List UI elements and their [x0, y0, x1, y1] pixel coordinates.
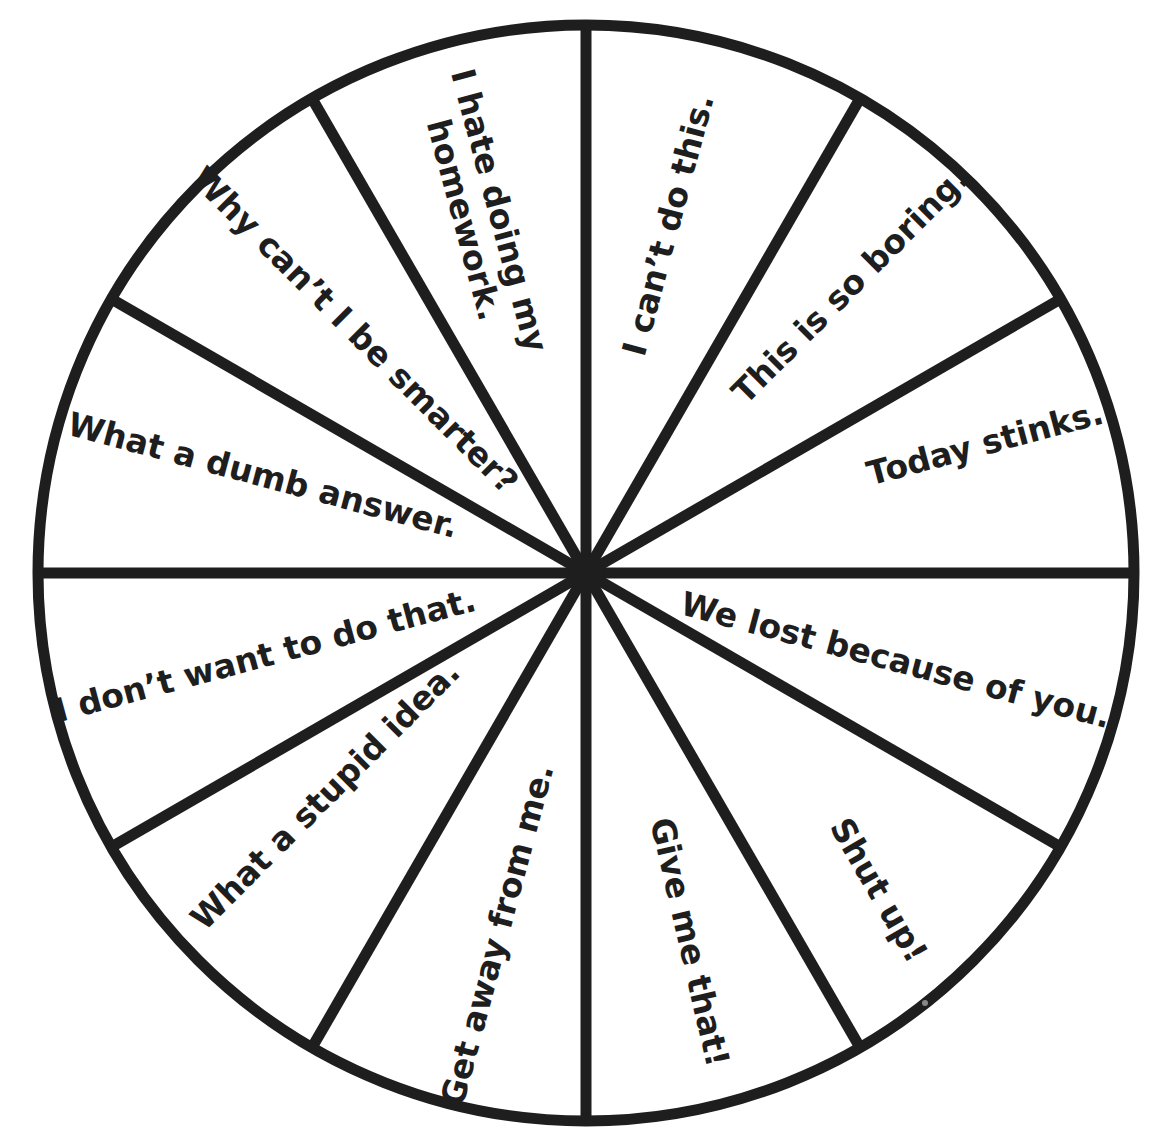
stray-dot [922, 1000, 928, 1006]
segment-text-line: What a dumb answer. [64, 404, 463, 546]
segment-label-6: Give me that! [642, 814, 737, 1071]
segment-label-8: What a stupid idea. [182, 652, 467, 937]
segment-label-12: I hate doing myhomework. [408, 65, 556, 366]
segment-text-line: Today stinks. [863, 393, 1108, 494]
segment-label-10: What a dumb answer. [64, 404, 463, 546]
wheel-hub [568, 555, 604, 591]
phrase-wheel: I can’t do this.This is so boring.Today … [0, 0, 1156, 1127]
segment-label-5: Shut up! [822, 811, 936, 969]
segment-text-line: I can’t do this. [614, 90, 721, 360]
spoke-2 [586, 573, 1061, 847]
segment-text-line: Shut up! [822, 811, 936, 969]
segment-label-1: I can’t do this. [614, 90, 721, 360]
segment-text-line: What a stupid idea. [182, 652, 467, 937]
segment-label-3: Today stinks. [863, 393, 1108, 494]
segment-text-line: Give me that! [642, 814, 737, 1071]
